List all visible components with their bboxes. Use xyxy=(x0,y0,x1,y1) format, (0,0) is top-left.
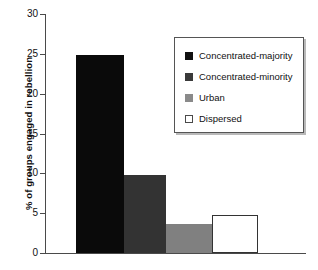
legend-item: Urban xyxy=(185,92,225,104)
bar-4 xyxy=(212,215,258,253)
y-tick-label: 0 xyxy=(0,247,38,258)
y-tick-mark xyxy=(40,14,45,15)
y-tick-label: 15 xyxy=(0,128,38,139)
bar-2 xyxy=(124,175,166,253)
legend-label: Dispersed xyxy=(199,114,242,124)
y-tick-mark xyxy=(40,253,45,254)
y-tick-mark xyxy=(40,213,45,214)
legend: Concentrated-majorityConcentrated-minori… xyxy=(174,37,304,133)
bar-1 xyxy=(76,55,124,253)
legend-item: Dispersed xyxy=(185,113,242,125)
bar-chart: % of groups engaged in rebellion 3025201… xyxy=(0,0,318,270)
y-tick-label: 20 xyxy=(0,88,38,99)
y-tick-label: 5 xyxy=(0,207,38,218)
legend-label: Urban xyxy=(199,93,225,103)
y-tick-mark xyxy=(40,134,45,135)
y-tick-mark xyxy=(40,54,45,55)
y-tick-label: 30 xyxy=(0,8,38,19)
y-tick-label: 25 xyxy=(0,48,38,59)
legend-item: Concentrated-minority xyxy=(185,71,292,83)
legend-swatch-icon xyxy=(185,73,193,81)
y-tick-mark xyxy=(40,173,45,174)
x-axis-line xyxy=(45,253,306,254)
y-tick-label: 10 xyxy=(0,167,38,178)
legend-label: Concentrated-majority xyxy=(199,51,292,61)
bar-3 xyxy=(166,224,212,253)
legend-swatch-icon xyxy=(185,115,193,123)
legend-swatch-icon xyxy=(185,94,193,102)
legend-label: Concentrated-minority xyxy=(199,72,292,82)
legend-item: Concentrated-majority xyxy=(185,50,292,62)
y-tick-mark xyxy=(40,94,45,95)
legend-swatch-icon xyxy=(185,52,193,60)
